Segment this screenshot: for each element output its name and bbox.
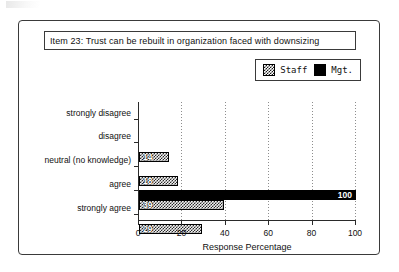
category-label: strongly disagree — [66, 108, 131, 118]
x-tick-80 — [312, 221, 313, 225]
x-tick-60 — [268, 221, 269, 225]
legend-label-staff: Staff — [280, 65, 307, 75]
bar-value-label: 29 — [140, 225, 155, 234]
x-tick-label-20: 20 — [177, 228, 186, 238]
legend-entry-staff: Staff — [263, 64, 307, 76]
bar-row: neutral (no knowledge)18 — [138, 150, 356, 174]
bar-row: agree10039 — [138, 173, 356, 197]
x-tick-20 — [181, 221, 182, 225]
chart-legend: Staff Mgt. — [255, 59, 361, 81]
y-tick-1 — [134, 142, 138, 143]
plot-area: strongly disagreedisagree14neutral (no k… — [138, 102, 356, 221]
solid-black-swatch-icon — [314, 64, 326, 76]
scan-artifact — [6, 1, 40, 8]
category-label: disagree — [98, 131, 131, 141]
checkered-swatch-icon — [263, 64, 275, 76]
category-label: strongly agree — [77, 203, 131, 213]
chart-title-box: Item 23: Trust can be rebuilt in organiz… — [44, 31, 356, 50]
x-tick-label-40: 40 — [220, 228, 229, 238]
bar-row: strongly agree29 — [138, 197, 356, 221]
x-tick-label-0: 0 — [136, 228, 141, 238]
y-tick-0 — [134, 119, 138, 120]
y-tick-3 — [134, 190, 138, 191]
x-tick-label-100: 100 — [348, 228, 362, 238]
x-tick-40 — [225, 221, 226, 225]
bar-staff-4: 29 — [139, 224, 202, 234]
category-label: neutral (no knowledge) — [45, 155, 131, 165]
x-tick-100 — [355, 221, 356, 225]
chart-figure-frame: Item 23: Trust can be rebuilt in organiz… — [18, 20, 380, 255]
bar-row: strongly disagree — [138, 102, 356, 126]
chart-title: Item 23: Trust can be rebuilt in organiz… — [45, 36, 319, 46]
category-label: agree — [109, 179, 131, 189]
x-tick-label-80: 80 — [307, 228, 316, 238]
y-tick-4 — [134, 214, 138, 215]
x-axis-title: Response Percentage — [138, 242, 356, 252]
legend-label-mgt: Mgt. — [331, 65, 353, 75]
x-tick-label-60: 60 — [263, 228, 272, 238]
legend-entry-mgt: Mgt. — [314, 64, 353, 76]
x-tick-0 — [138, 221, 139, 225]
bar-row: disagree14 — [138, 126, 356, 150]
y-tick-2 — [134, 166, 138, 167]
